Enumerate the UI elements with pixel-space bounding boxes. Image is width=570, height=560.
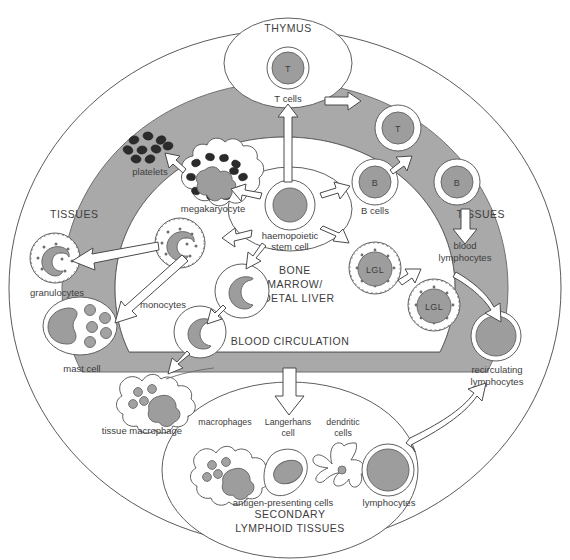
antigen-presenting-cells-label: antigen-presenting cells	[233, 497, 334, 508]
cell-t-blood: T	[375, 105, 421, 151]
apc-macrophages-label: macrophages	[198, 417, 252, 427]
thymus-region: THYMUS T T cells	[224, 18, 352, 108]
tissues-left-label: TISSUES	[50, 208, 98, 220]
stem-cell-label-1: haemopoietic	[262, 230, 319, 241]
cell-sl-lymphocyte	[362, 444, 414, 496]
apc-dendritic-line-2: cells	[334, 428, 352, 438]
bone-marrow-line-1: BONE	[279, 264, 311, 276]
sl-lymphocytes-label: lymphocytes	[363, 497, 416, 508]
thymus-label: THYMUS	[264, 22, 311, 34]
cell-lgl-blood: LGL	[408, 279, 460, 331]
bone-marrow-line-2: MARROW/	[267, 278, 322, 290]
apc-langerhans-line-1: Langerhans	[265, 417, 312, 427]
secondary-line-2: LYMPHOID TISSUES	[235, 522, 345, 534]
cell-b-blood: B	[434, 159, 480, 205]
mast-cell-label: mast cell	[63, 363, 100, 374]
arrow-secondary-to-tissues-bidirectional	[406, 383, 486, 452]
cell-tissue-macrophage: tissue macrophage	[102, 374, 195, 436]
blood-circulation-label: BLOOD CIRCULATION	[231, 335, 350, 347]
blood-b-mark: B	[454, 178, 460, 188]
lgl-marrow-mark: LGL	[366, 265, 384, 275]
apc-langerhans-line-2: cell	[281, 428, 294, 438]
platelets-label: platelets	[132, 166, 168, 177]
blood-lymphocytes-line-2: lymphocytes	[439, 252, 492, 263]
blood-t-mark: T	[395, 124, 401, 134]
cell-lgl-marrow: LGL	[349, 242, 401, 294]
megakaryocyte-label: megakaryocyte	[181, 203, 245, 214]
secondary-line-1: SECONDARY	[255, 508, 326, 520]
b-cells-label: B cells	[361, 205, 389, 216]
cell-thymus-t: T	[267, 47, 309, 89]
cell-recirculating-lymphocytes: recirculating lymphocytes	[471, 311, 524, 387]
diagram-root: THYMUS T T cells TISSUES TISSUES BONE MA…	[0, 0, 570, 560]
lgl-blood-mark: LGL	[425, 302, 443, 312]
recirculating-line-1: recirculating	[471, 364, 522, 375]
b-marrow-mark: B	[372, 178, 378, 188]
thymus-t-mark: T	[285, 64, 291, 74]
monocytes-label: monocytes	[140, 299, 186, 310]
t-cells-label: T cells	[274, 93, 302, 104]
haemopoiesis-diagram: THYMUS T T cells TISSUES TISSUES BONE MA…	[0, 0, 570, 560]
apc-dendritic-line-1: dendritic	[326, 417, 360, 427]
granulocytes-label: granulocytes	[30, 287, 84, 298]
stem-cell-label-2: stem cell	[271, 241, 308, 252]
tissue-macrophage-label: tissue macrophage	[102, 425, 182, 436]
